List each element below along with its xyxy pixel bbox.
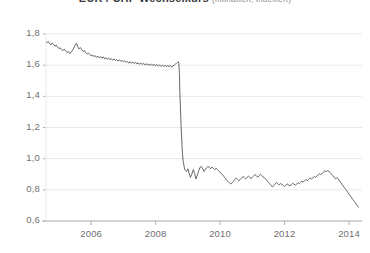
x-axis-tick-label: 2010 [200, 228, 240, 239]
chart-container: EUR / CHF Wechselkurs (monatlich, Indexi… [0, 0, 370, 253]
x-axis-tick-label: 2014 [329, 228, 369, 239]
x-axis-ticks [91, 221, 349, 225]
x-axis-tick-label: 2012 [265, 228, 305, 239]
data-series-line [47, 41, 359, 207]
x-axis-tick-label: 2006 [71, 228, 111, 239]
x-axis: 20062008201020122014 [0, 228, 370, 248]
x-axis-tick-label: 2008 [136, 228, 176, 239]
plot-area [0, 0, 370, 253]
gridlines [43, 34, 362, 221]
